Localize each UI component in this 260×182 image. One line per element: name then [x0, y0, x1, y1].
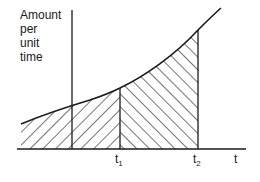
y-label-line: unit: [20, 36, 61, 50]
x-axis-label: t: [234, 152, 237, 166]
t2-label: t2: [193, 152, 201, 168]
y-label-line: time: [20, 50, 61, 64]
t1-label: t1: [115, 152, 123, 168]
area-t1-to-t2: [120, 30, 198, 149]
t1-label-sub: 1: [118, 159, 122, 168]
t2-label-sub: 2: [196, 159, 200, 168]
y-axis-label: Amount per unit time: [20, 8, 61, 64]
y-label-line: Amount: [20, 8, 61, 22]
y-label-line: per: [20, 22, 61, 36]
